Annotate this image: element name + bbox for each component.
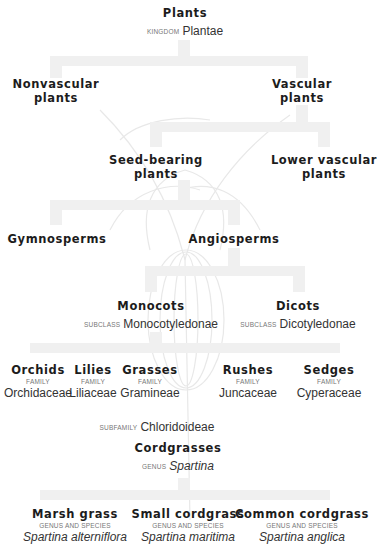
scientific-name: Spartina	[169, 459, 214, 473]
rank-label: SUBFAMILY	[100, 424, 138, 431]
rank-label: FAMILY	[297, 377, 362, 386]
connector-gymno-drop	[50, 200, 62, 225]
node-name: Lilies	[69, 363, 116, 377]
connector-nonvascular-drop	[50, 56, 62, 78]
rank-label: GENUS AND SPECIES	[132, 521, 245, 530]
node-cordgrasses: Cordgrasses GENUSSpartina	[135, 441, 222, 474]
node-name: Monocots	[84, 299, 218, 313]
node-grasses: Grasses FAMILY Gramineae	[120, 363, 179, 400]
rank-label: FAMILY	[69, 377, 116, 386]
node-gymnosperms: Gymnosperms	[8, 232, 107, 246]
node-name: plants	[109, 167, 203, 181]
connector-species	[40, 490, 330, 500]
node-name: Rushes	[219, 363, 277, 377]
connector-vascular-drop	[296, 56, 308, 78]
rank-label: SUBCLASS	[240, 321, 276, 328]
node-name: plants	[272, 91, 332, 105]
node-sedges: Sedges FAMILY Cyperaceae	[297, 363, 362, 400]
rank-label: SUBCLASS	[84, 321, 120, 328]
scientific-name: Juncaceae	[219, 386, 277, 400]
connector-level3	[50, 200, 240, 210]
connector-mono-drop	[145, 266, 157, 292]
scientific-name: Cyperaceae	[297, 386, 362, 400]
rank-label: FAMILY	[120, 377, 179, 386]
scientific-name: Spartina alterniflora	[23, 530, 127, 544]
connector-angio-drop	[228, 200, 240, 225]
scientific-name: Gramineae	[120, 386, 179, 400]
node-name: Common cordgrass	[235, 507, 369, 521]
connector-seed-drop	[150, 122, 162, 147]
node-name: Angiosperms	[188, 232, 279, 246]
rank-label: FAMILY	[4, 377, 72, 386]
node-lower-vascular-plants: Lower vascular plants	[271, 153, 377, 181]
node-name: Plants	[147, 6, 223, 20]
scientific-name: Plantae	[182, 24, 223, 38]
node-subfamily: SUBFAMILYChloridoideae	[100, 416, 215, 435]
connector-families	[30, 343, 340, 353]
rank-label: FAMILY	[219, 377, 277, 386]
scientific-name: Dicotyledonae	[280, 317, 356, 331]
connector-seed-stem	[178, 180, 190, 202]
node-name: Orchids	[4, 363, 72, 377]
rank-label: KINGDOM	[147, 28, 179, 35]
connector-dicot-drop	[293, 266, 305, 292]
node-name: Gymnosperms	[8, 232, 107, 246]
node-nonvascular-plants: Nonvascular plants	[13, 77, 100, 105]
node-name: Sedges	[297, 363, 362, 377]
scientific-name: Liliaceae	[69, 386, 116, 400]
connector-level2	[150, 122, 330, 132]
node-name: plants	[271, 167, 377, 181]
node-common-cordgrass: Common cordgrass GENUS AND SPECIES Spart…	[235, 507, 369, 544]
scientific-name: Spartina anglica	[235, 530, 369, 544]
node-name: Vascular	[272, 77, 332, 91]
scientific-name: Chloridoideae	[140, 420, 214, 434]
scientific-name: Spartina maritima	[132, 530, 245, 544]
node-rushes: Rushes FAMILY Juncaceae	[219, 363, 277, 400]
connector-lower-drop	[318, 122, 330, 147]
node-name: Grasses	[120, 363, 179, 377]
node-name: Seed-bearing	[109, 153, 203, 167]
node-name: Lower vascular	[271, 153, 377, 167]
node-name: plants	[13, 91, 100, 105]
rank-label: GENUS AND SPECIES	[235, 521, 369, 530]
connector-level1	[50, 56, 308, 66]
node-marsh-grass: Marsh grass GENUS AND SPECIES Spartina a…	[23, 507, 127, 544]
connector-level4	[145, 266, 305, 276]
node-name: Marsh grass	[23, 507, 127, 521]
node-monocots: Monocots SUBCLASSMonocotyledonae	[84, 299, 218, 332]
node-small-cordgrass: Small cordgrass GENUS AND SPECIES Sparti…	[132, 507, 245, 544]
node-name: Small cordgrass	[132, 507, 245, 521]
node-angiosperms: Angiosperms	[188, 232, 279, 246]
node-plants: Plants KINGDOMPlantae	[147, 6, 223, 39]
node-orchids: Orchids FAMILY Orchidaceae	[4, 363, 72, 400]
scientific-name: Monocotyledonae	[123, 317, 218, 331]
node-vascular-plants: Vascular plants	[272, 77, 332, 105]
node-name: Dicots	[240, 299, 355, 313]
rank-label: GENUS AND SPECIES	[23, 521, 127, 530]
scientific-name: Orchidaceae	[4, 386, 72, 400]
node-dicots: Dicots SUBCLASSDicotyledonae	[240, 299, 355, 332]
node-name: Cordgrasses	[135, 441, 222, 455]
rank-label: GENUS	[142, 463, 166, 470]
node-name: Nonvascular	[13, 77, 100, 91]
node-lilies: Lilies FAMILY Liliaceae	[69, 363, 116, 400]
node-seed-bearing-plants: Seed-bearing plants	[109, 153, 203, 181]
